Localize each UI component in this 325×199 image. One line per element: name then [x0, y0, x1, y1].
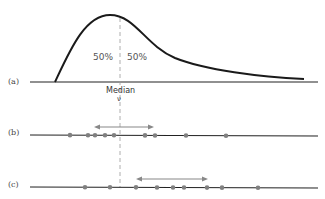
data-point	[184, 133, 189, 138]
median-symbol: ν	[117, 95, 121, 103]
panel-b-label: (b)	[8, 128, 19, 137]
right-percent: 50%	[127, 52, 147, 62]
median-diagram: (a) 50% 50% Median ν (b) (c)	[0, 0, 325, 199]
panel-c-label: (c)	[8, 180, 19, 189]
axis-b	[30, 135, 318, 136]
data-point	[93, 133, 98, 138]
data-point	[112, 133, 117, 138]
data-point	[155, 185, 160, 190]
data-point	[108, 185, 113, 190]
row-c-arrow	[136, 177, 208, 182]
data-point	[68, 133, 73, 138]
distribution-curve	[55, 15, 304, 82]
data-point	[182, 185, 187, 190]
median-label: Median	[106, 86, 135, 95]
data-point	[224, 133, 229, 138]
panel-a-label: (a)	[8, 77, 19, 86]
data-point	[86, 133, 91, 138]
data-point	[205, 185, 210, 190]
data-point	[103, 133, 108, 138]
data-point	[171, 185, 176, 190]
data-point	[143, 133, 148, 138]
data-point	[153, 133, 158, 138]
row-b-arrow	[94, 125, 154, 130]
data-point	[256, 185, 261, 190]
data-point	[83, 185, 88, 190]
data-point	[220, 185, 225, 190]
left-percent: 50%	[93, 52, 113, 62]
data-point	[134, 185, 139, 190]
